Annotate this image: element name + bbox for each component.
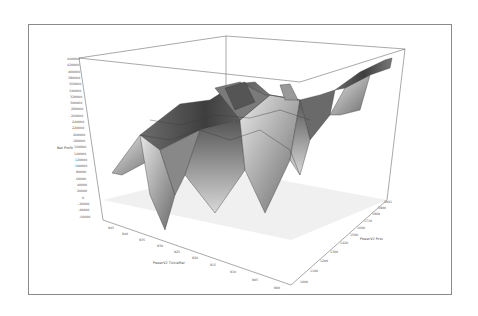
svg-text:420000: 420000 [67, 63, 79, 67]
svg-text:100000: 100000 [75, 164, 87, 168]
svg-text:1000: 1000 [300, 280, 308, 284]
svg-text:920: 920 [192, 256, 198, 260]
x-axis: 945 940 935 930 925 920 915 910 905 900 … [108, 226, 280, 290]
svg-text:1420: 1420 [340, 241, 348, 245]
z-axis-title: Net Profit [57, 146, 74, 150]
svg-text:360000: 360000 [69, 82, 81, 86]
surface-chart: Net Profit 440000 420000 400000 380000 3… [0, 0, 478, 316]
svg-text:220000: 220000 [72, 126, 84, 130]
y-axis-title: PowerV2 Pcts [360, 237, 383, 241]
floor-plane [103, 170, 387, 240]
svg-text:20000: 20000 [77, 189, 87, 193]
svg-text:1600: 1600 [357, 226, 365, 230]
svg-text:-20000: -20000 [78, 202, 89, 206]
svg-text:40000: 40000 [77, 183, 87, 187]
svg-text:280000: 280000 [71, 107, 83, 111]
svg-text:945: 945 [108, 226, 114, 230]
svg-text:935: 935 [139, 238, 145, 242]
svg-text:260000: 260000 [71, 114, 83, 118]
svg-text:180000: 180000 [73, 139, 85, 143]
svg-text:915: 915 [210, 263, 216, 267]
svg-text:440000: 440000 [67, 57, 79, 61]
z-axis: Net Profit 440000 420000 400000 380000 3… [57, 57, 90, 219]
svg-text:1900: 1900 [378, 206, 386, 210]
svg-text:200000: 200000 [73, 133, 85, 137]
svg-text:380000: 380000 [68, 76, 80, 80]
svg-text:160000: 160000 [74, 145, 86, 149]
svg-text:240000: 240000 [72, 120, 84, 124]
svg-text:-40000: -40000 [78, 208, 89, 212]
svg-text:80000: 80000 [76, 170, 86, 174]
svg-text:1710: 1710 [364, 219, 372, 223]
svg-text:300000: 300000 [70, 101, 82, 105]
svg-text:400000: 400000 [68, 70, 80, 74]
svg-text:320000: 320000 [70, 95, 82, 99]
svg-text:940: 940 [122, 232, 128, 236]
svg-text:120000: 120000 [75, 158, 87, 162]
svg-text:-60000: -60000 [79, 215, 90, 219]
svg-text:925: 925 [174, 250, 180, 254]
svg-text:1100: 1100 [310, 269, 318, 273]
svg-text:340000: 340000 [69, 89, 81, 93]
svg-text:1200: 1200 [320, 259, 328, 263]
svg-text:0: 0 [82, 196, 84, 200]
svg-text:905: 905 [252, 278, 258, 282]
svg-text:910: 910 [230, 270, 236, 274]
svg-text:930: 930 [157, 244, 163, 248]
x-axis-title: PowerV2 TickleMar [153, 261, 186, 265]
svg-text:60000: 60000 [76, 177, 86, 181]
svg-text:1800: 1800 [372, 212, 380, 216]
svg-text:1500: 1500 [350, 233, 358, 237]
svg-text:140000: 140000 [74, 152, 86, 156]
svg-text:900: 900 [274, 286, 280, 290]
svg-text:1300: 1300 [330, 250, 338, 254]
svg-text:2001: 2001 [384, 200, 392, 204]
